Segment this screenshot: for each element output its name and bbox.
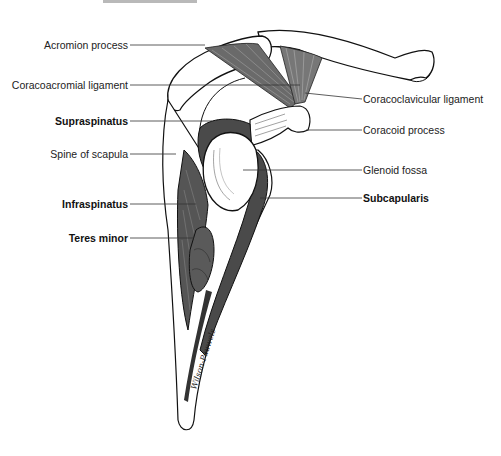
label-coracoid-process: Coracoid process [363,124,445,136]
label-subscapularis: Subcapularis [363,192,429,204]
coracoid-process [250,106,310,146]
label-infraspinatus: Infraspinatus [62,198,128,210]
scapula-illustration: Wilson-Pauwels [0,0,501,456]
label-coracoclavicular-ligament: Coracoclavicular ligament [363,93,483,105]
label-acromion-process: Acromion process [44,39,128,51]
label-spine-of-scapula: Spine of scapula [50,148,128,160]
label-supraspinatus: Supraspinatus [55,115,128,127]
label-coracoacromial-ligament: Coracoacromial ligament [12,79,128,91]
label-glenoid-fossa: Glenoid fossa [363,164,427,176]
glenoid-fossa [203,133,258,211]
label-teres-minor: Teres minor [69,232,128,244]
